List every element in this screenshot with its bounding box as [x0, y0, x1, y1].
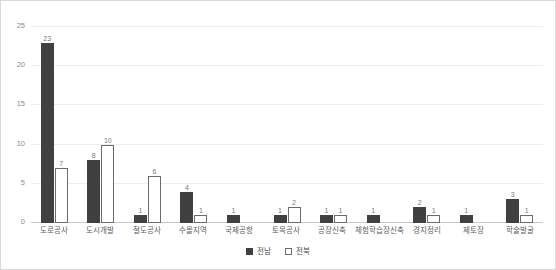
- bar-group: 237: [31, 27, 78, 223]
- bar-value-label: 7: [59, 160, 63, 167]
- bar-value-label: 10: [104, 137, 112, 144]
- bar[interactable]: 1: [427, 215, 440, 223]
- bar-slot: 1: [194, 27, 207, 223]
- y-axis-tick-label: 10: [17, 140, 25, 148]
- bar-slot: [381, 27, 394, 223]
- x-axis-category-labels: 도로공사도시개발철도공사수몰지역국제공항토목공사공장신축체험학습장신축경지정리제…: [31, 227, 543, 235]
- bar-slot: 6: [148, 27, 161, 223]
- bar[interactable]: 10: [101, 145, 114, 223]
- bar-group: 31: [496, 27, 543, 223]
- bar-slot: 4: [180, 27, 193, 223]
- bar-slot: 23: [41, 27, 54, 223]
- bar-group: 1: [217, 27, 264, 223]
- y-axis-tick-label: 5: [21, 179, 25, 187]
- bar-group: 1: [450, 27, 497, 223]
- bar-group: 41: [171, 27, 218, 223]
- bar-value-label: 1: [199, 207, 203, 214]
- bar[interactable]: 1: [334, 215, 347, 223]
- bar-slot: 1: [134, 27, 147, 223]
- bar-group: 21: [403, 27, 450, 223]
- x-axis-label: 철도공사: [124, 227, 170, 235]
- bar-value-label: 1: [525, 207, 529, 214]
- bar[interactable]: 1: [367, 215, 380, 223]
- bar-value-label: 1: [278, 207, 282, 214]
- x-axis-label: 수몰지역: [170, 227, 216, 235]
- bar-group: 12: [264, 27, 311, 223]
- bar[interactable]: 7: [55, 168, 68, 223]
- bar[interactable]: 1: [194, 215, 207, 223]
- legend-label: 전남: [257, 248, 271, 256]
- bar-slot: 2: [413, 27, 426, 223]
- bar[interactable]: 2: [413, 207, 426, 223]
- bar-slot: 1: [227, 27, 240, 223]
- y-axis-tick-label: 20: [17, 61, 25, 69]
- y-axis-tick-label: 15: [17, 101, 25, 109]
- bar-slot: 1: [520, 27, 533, 223]
- bar-slot: [474, 27, 487, 223]
- bar[interactable]: 1: [320, 215, 333, 223]
- bar-slot: 10: [101, 27, 114, 223]
- bar-value-label: 3: [511, 191, 515, 198]
- bar-slot: [241, 27, 254, 223]
- plot-area: 0510152025 237810164111211121131: [31, 27, 543, 223]
- bar[interactable]: 6: [148, 176, 161, 223]
- bar-value-label: 4: [185, 184, 189, 191]
- bar-slot: 2: [288, 27, 301, 223]
- bar[interactable]: 2: [288, 207, 301, 223]
- bar-value-label: 8: [92, 152, 96, 159]
- y-axis-tick-label: 0: [21, 218, 25, 226]
- bar-slot: 3: [506, 27, 519, 223]
- y-axis-tick-label: 25: [17, 22, 25, 30]
- bar-slot: 7: [55, 27, 68, 223]
- bar-value-label: 1: [339, 207, 343, 214]
- legend-swatch-icon: [285, 248, 292, 255]
- bar[interactable]: 4: [180, 192, 193, 223]
- x-axis-label: 국제공항: [216, 227, 262, 235]
- bar-slot: 1: [460, 27, 473, 223]
- bar-slot: 1: [334, 27, 347, 223]
- x-axis-label: 토목공사: [262, 227, 308, 235]
- bar[interactable]: 1: [520, 215, 533, 223]
- bar-group: 11: [310, 27, 357, 223]
- bar-slot: 1: [274, 27, 287, 223]
- bar-value-label: 23: [43, 35, 51, 42]
- bar[interactable]: 1: [227, 215, 240, 223]
- x-axis-label: 경지정리: [404, 227, 450, 235]
- bar-slot: 1: [367, 27, 380, 223]
- x-axis-label: 공장신축: [309, 227, 355, 235]
- chart-legend: 전남전북: [1, 248, 555, 256]
- bar[interactable]: 1: [460, 215, 473, 223]
- x-axis-label: 도시개발: [77, 227, 123, 235]
- legend-item[interactable]: 전북: [285, 248, 310, 256]
- x-axis-label: 제토장: [450, 227, 496, 235]
- x-axis-label: 체험학습장신축: [355, 227, 404, 235]
- x-axis-label: 학술발굴: [497, 227, 543, 235]
- legend-swatch-icon: [246, 248, 253, 255]
- bar-value-label: 2: [418, 199, 422, 206]
- bar-group: 16: [124, 27, 171, 223]
- legend-item[interactable]: 전남: [246, 248, 271, 256]
- bar[interactable]: 1: [134, 215, 147, 223]
- bar[interactable]: 8: [87, 160, 100, 223]
- bar[interactable]: 1: [274, 215, 287, 223]
- bar-group: 1: [357, 27, 404, 223]
- bar-slot: 1: [320, 27, 333, 223]
- bar[interactable]: 23: [41, 43, 54, 223]
- bar-slot: 1: [427, 27, 440, 223]
- bar-groups: 237810164111211121131: [31, 27, 543, 223]
- bar-value-label: 1: [325, 207, 329, 214]
- bar-value-label: 1: [371, 207, 375, 214]
- bar-value-label: 6: [152, 168, 156, 175]
- bar[interactable]: 3: [506, 199, 519, 223]
- x-axis-label: 도로공사: [31, 227, 77, 235]
- bar-value-label: 1: [432, 207, 436, 214]
- bar-value-label: 2: [292, 199, 296, 206]
- bar-chart-figure: 0510152025 237810164111211121131 도로공사도시개…: [0, 0, 556, 270]
- bar-value-label: 1: [138, 207, 142, 214]
- bar-value-label: 1: [232, 207, 236, 214]
- legend-label: 전북: [296, 248, 310, 256]
- bar-slot: 8: [87, 27, 100, 223]
- bar-value-label: 1: [464, 207, 468, 214]
- bar-group: 810: [78, 27, 125, 223]
